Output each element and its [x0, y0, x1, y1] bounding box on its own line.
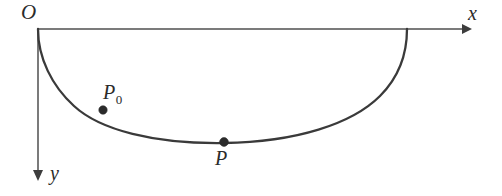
cycloid-curve [38, 29, 407, 143]
x-axis-label: x [468, 3, 477, 23]
x-axis-arrowhead-icon [462, 24, 472, 34]
origin-label: O [21, 2, 36, 23]
figure-canvas: O x y P0 P [0, 0, 502, 196]
point-label-p0: P0 [103, 82, 122, 106]
y-axis-arrowhead-icon [33, 170, 43, 181]
figure-drawing [0, 0, 502, 196]
point-marker-p0 [99, 106, 107, 114]
point-label-p0-base: P [103, 81, 115, 103]
point-label-p: P [215, 148, 227, 168]
point-label-p0-subscript: 0 [116, 92, 123, 107]
y-axis-label: y [50, 163, 59, 183]
point-marker-p [220, 138, 229, 147]
